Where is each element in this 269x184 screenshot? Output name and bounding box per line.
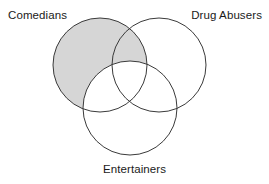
venn-diagram: Comedians Drug Abusers Entertainers [0, 0, 269, 184]
label-comedians: Comedians [8, 10, 67, 22]
label-entertainers: Entertainers [103, 164, 166, 176]
label-drug-abusers: Drug Abusers [191, 10, 262, 22]
shaded-region-comedians-minus-entertainers [0, 0, 269, 184]
shaded-region-group [0, 0, 269, 184]
venn-diagram-canvas [0, 0, 269, 184]
